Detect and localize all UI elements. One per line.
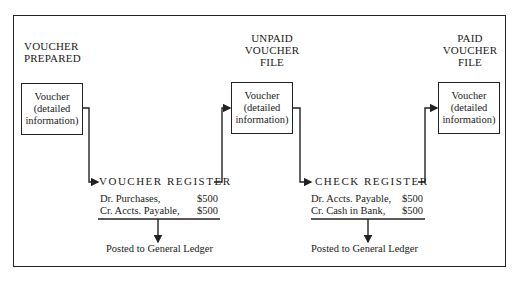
entry-amount: $500: [402, 205, 423, 217]
entry-label: Cr. Cash in Bank,: [311, 205, 385, 217]
check-register-posted-note: Posted to General Ledger: [311, 243, 418, 254]
flow-connectors: [0, 0, 523, 284]
entry-label: Cr. Accts. Payable,: [100, 205, 180, 217]
entry-amount: $500: [402, 193, 423, 205]
check-register-entries: Dr. Accts. Payable, $500 Cr. Cash in Ban…: [311, 193, 423, 217]
entry-label: Dr. Accts. Payable,: [311, 193, 391, 205]
journal-entry-row: Cr. Accts. Payable, $500: [100, 205, 218, 217]
check-register-title: CHECK REGISTER: [315, 175, 429, 187]
voucher-register-posted-note: Posted to General Ledger: [106, 243, 213, 254]
entry-label: Dr. Purchases,: [100, 193, 160, 205]
entry-amount: $500: [197, 205, 218, 217]
journal-entry-row: Dr. Purchases, $500: [100, 193, 218, 205]
journal-entry-row: Dr. Accts. Payable, $500: [311, 193, 423, 205]
voucher-register-entries: Dr. Purchases, $500 Cr. Accts. Payable, …: [100, 193, 218, 217]
entry-amount: $500: [197, 193, 218, 205]
journal-entry-row: Cr. Cash in Bank, $500: [311, 205, 423, 217]
voucher-register-title: VOUCHER REGISTER: [99, 175, 231, 187]
